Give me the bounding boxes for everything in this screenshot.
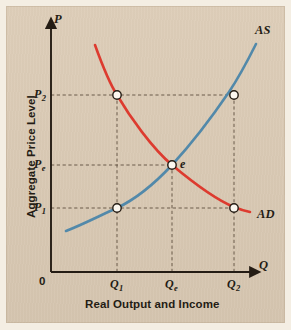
ad-curve [95,45,250,212]
x-tick-q2-sub: 2 [236,283,240,293]
point-equilibrium [168,161,176,169]
x-tick-q1: Q1 [110,278,123,290]
marked-points [113,91,238,212]
chart-figure: P Q 0 P2 Pe P1 Q1 Qe Q2 AS AD e Aggregat… [0,0,291,330]
ad-curve-label: AD [257,208,275,221]
point-q1-p2 [113,91,121,99]
y-axis-symbol: P [54,13,62,26]
x-tick-q2-base: Q [227,277,236,291]
y-axis-title: Aggregate Price Level [26,95,38,218]
x-axis-title: Real Output and Income [85,299,219,311]
x-tick-q2: Q2 [227,278,240,290]
x-tick-q1-base: Q [110,277,119,291]
y-tick-p2-sub: 2 [42,93,46,103]
x-tick-qe-sub: e [174,283,178,293]
x-tick-qe-base: Q [165,277,174,291]
axes [51,27,251,272]
x-tick-q1-sub: 1 [119,283,123,293]
y-tick-pe-sub: e [42,163,46,173]
point-q1-p1 [113,204,121,212]
as-curve-label: AS [255,24,271,37]
x-axis-symbol: Q [259,259,268,272]
origin-label: 0 [39,276,45,288]
point-q2-p1 [230,204,238,212]
x-tick-qe: Qe [165,278,177,290]
point-q2-p2 [230,91,238,99]
equilibrium-label: e [180,158,185,170]
y-tick-p1-sub: 1 [42,206,46,216]
